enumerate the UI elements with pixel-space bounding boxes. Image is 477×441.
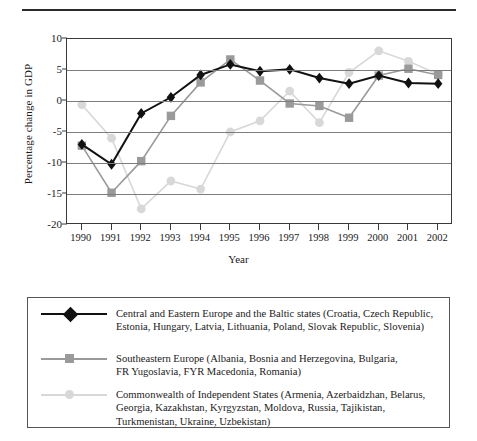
x-axis-tick-mark [407,224,408,230]
data-point-marker [107,189,115,197]
data-point-marker [345,78,353,89]
legend-entry[interactable]: Commonwealth of Independent States (Arme… [28,388,425,428]
legend-line-swatch [41,394,107,396]
y-axis-tick-mark [62,162,67,163]
gridline [67,70,451,71]
x-axis-tick-mark [111,224,112,230]
gridline [67,132,451,133]
x-axis-tick-mark [437,224,438,230]
legend-line-swatch [41,358,107,360]
x-axis-tick-labels: 1990199119921993199419951996199719981999… [66,232,452,250]
x-axis-tick-mark [378,224,379,230]
x-axis-tick-mark [289,224,290,230]
data-point-marker [434,71,442,79]
data-point-marker [256,76,264,84]
data-point-marker [345,114,353,122]
gridline [67,194,451,195]
y-axis-tick-label: 0 [22,94,62,106]
x-axis-title: Year [0,253,477,265]
legend-key [37,388,111,402]
legend-key [37,352,111,366]
x-axis-tick-marks [66,224,452,232]
data-point-marker [374,46,383,55]
y-axis-tick-label: -10 [22,156,62,168]
black-diamond-marker [63,307,79,323]
legend-entry-label: Commonwealth of Independent States (Arme… [111,388,425,428]
gridline [67,163,451,164]
y-axis-tick-label: -20 [22,218,62,230]
light-gray-circle-marker [65,390,74,399]
y-axis-tick-mark [62,131,67,132]
x-axis-tick-label: 2002 [417,232,457,243]
series-group [78,59,443,170]
y-axis-tick-label: 5 [22,63,62,75]
x-axis-tick-mark [318,224,319,230]
y-axis-tick-labels: 1050-5-10-15-20 [18,38,62,224]
gray-square-marker [65,354,74,363]
data-point-marker [196,185,205,194]
header-divider-rule [22,9,456,11]
data-point-marker [256,116,265,125]
y-axis-tick-mark [62,193,67,194]
data-point-marker [107,134,116,143]
legend-entry-label: Southeastern Europe (Albania, Bosnia and… [111,352,398,379]
gridline [67,101,451,102]
x-axis-tick-mark [200,224,201,230]
data-point-marker [315,73,323,84]
data-point-marker [137,157,145,165]
data-point-marker [167,177,176,186]
legend-entry[interactable]: Southeastern Europe (Albania, Bosnia and… [28,352,398,379]
x-axis-tick-mark [259,224,260,230]
chart-legend: Central and Eastern Europe and the Balti… [27,297,450,428]
legend-entry-label: Central and Eastern Europe and the Balti… [111,307,433,334]
y-axis-tick-label: -5 [22,125,62,137]
data-point-marker [434,78,442,89]
y-axis-tick-mark [62,224,67,225]
plot-area [66,38,452,224]
data-point-marker [404,57,413,66]
y-axis-tick-label: -15 [22,187,62,199]
y-axis-tick-mark [62,100,67,101]
y-axis-tick-label: 10 [22,32,62,44]
y-axis-tick-mark [62,38,67,39]
x-axis-tick-mark [140,224,141,230]
data-point-marker [167,112,175,120]
data-point-marker [137,204,146,213]
legend-key [37,307,111,321]
data-point-marker [256,66,264,77]
data-point-marker [404,65,412,73]
data-point-marker [404,78,412,89]
gdp-line-chart: Percentage change in GDP 1050-5-10-15-20… [0,22,477,267]
x-axis-tick-mark [170,224,171,230]
legend-entry[interactable]: Central and Eastern Europe and the Balti… [28,307,433,334]
x-axis-tick-mark [81,224,82,230]
x-axis-tick-mark [229,224,230,230]
data-point-marker [285,87,294,96]
data-point-marker [315,118,324,127]
y-axis-tick-mark [62,69,67,70]
data-point-marker [315,102,323,110]
x-axis-tick-mark [348,224,349,230]
